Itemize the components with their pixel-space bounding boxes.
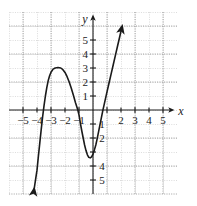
y-tick-label: 2 bbox=[83, 76, 89, 88]
graph-figure: −5 −4 −3 −2 −1 2 3 4 5 5 4 3 2 1 1 2 4 5… bbox=[0, 0, 197, 206]
x-tick-label: 4 bbox=[146, 114, 152, 126]
x-tick-label: 3 bbox=[132, 114, 138, 126]
x-tick-label: −5 bbox=[17, 114, 29, 126]
y-tick-label: 5 bbox=[99, 174, 105, 186]
coordinate-plane-svg: −5 −4 −3 −2 −1 2 3 4 5 5 4 3 2 1 1 2 4 5… bbox=[0, 0, 197, 206]
x-tick-label: 2 bbox=[118, 114, 124, 126]
x-tick-label: 5 bbox=[160, 114, 166, 126]
y-tick-label: 2 bbox=[99, 132, 105, 144]
y-tick-label: 4 bbox=[83, 48, 89, 60]
x-tick-label: −2 bbox=[59, 114, 71, 126]
y-tick-label: 5 bbox=[83, 34, 89, 46]
x-axis-label: x bbox=[177, 104, 184, 118]
y-tick-label: 4 bbox=[99, 160, 105, 172]
y-axis-label: y bbox=[81, 12, 88, 26]
y-tick-label: 3 bbox=[83, 62, 89, 74]
x-tick-label: −3 bbox=[45, 114, 57, 126]
y-tick-label: 1 bbox=[83, 90, 89, 102]
